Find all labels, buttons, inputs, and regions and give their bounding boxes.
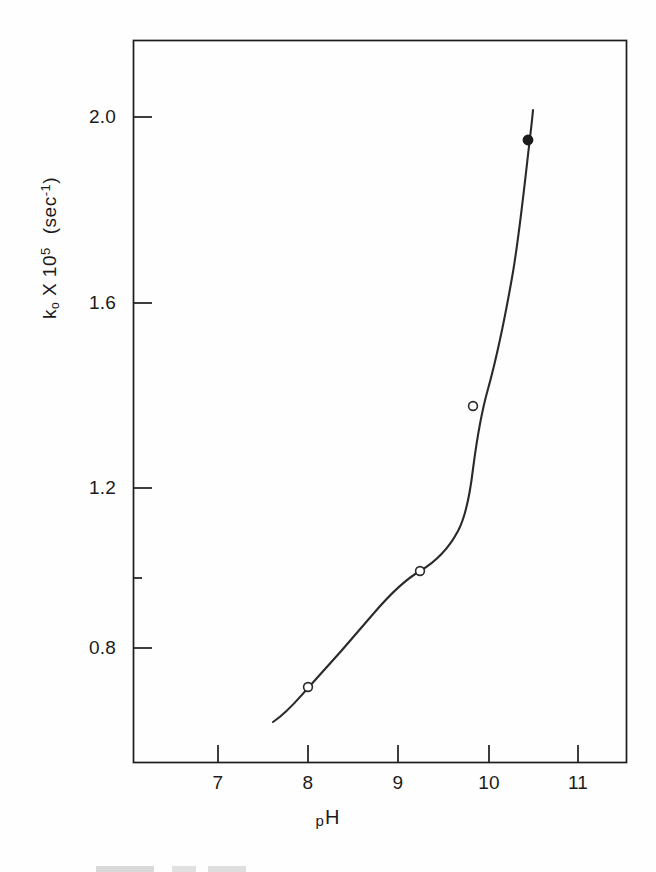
x-tick-label-8: 8	[303, 772, 314, 794]
figure-root: 2.0 1.6 1.2 0.8 7 8 9 10 11 ko X 105(sec…	[0, 0, 656, 872]
y-axis-title-units-open: (sec	[39, 196, 60, 234]
data-point-open-1	[304, 683, 313, 692]
y-axis-major-ticks	[134, 117, 153, 648]
x-tick-label-10: 10	[478, 772, 500, 794]
caption-remnant-artifact	[96, 866, 246, 872]
y-tick-label-1-6: 1.6	[60, 292, 116, 314]
fitted-curve	[273, 110, 533, 722]
x-axis-title-h: H	[325, 806, 340, 828]
x-tick-label-7: 7	[213, 772, 224, 794]
data-point-open-2	[416, 567, 425, 576]
x-tick-label-9: 9	[393, 772, 404, 794]
axis-frame	[134, 41, 627, 763]
y-tick-label-1-2: 1.2	[60, 477, 116, 499]
x-axis-title: pH	[0, 806, 656, 829]
x-tick-label-11: 11	[568, 772, 588, 794]
x-axis-major-ticks	[218, 745, 578, 763]
y-axis-title-exponent: 5	[38, 247, 53, 255]
y-axis-title-units-exponent: -1	[38, 184, 53, 197]
y-axis-title: ko X 105(sec-1)	[38, 138, 62, 358]
y-axis-title-subscript: o	[48, 302, 62, 309]
data-point-open-3	[469, 402, 478, 411]
data-point-filled-4	[523, 135, 532, 144]
y-axis-title-multiplier: X 10	[39, 255, 60, 302]
y-axis-title-units-close: )	[39, 177, 60, 184]
plot-surface	[0, 0, 656, 872]
x-axis-title-p: p	[316, 812, 325, 829]
y-tick-label-2-0: 2.0	[60, 106, 116, 128]
data-point-markers	[304, 135, 533, 691]
y-tick-label-0-8: 0.8	[60, 637, 116, 659]
y-axis-title-k: k	[39, 309, 60, 319]
